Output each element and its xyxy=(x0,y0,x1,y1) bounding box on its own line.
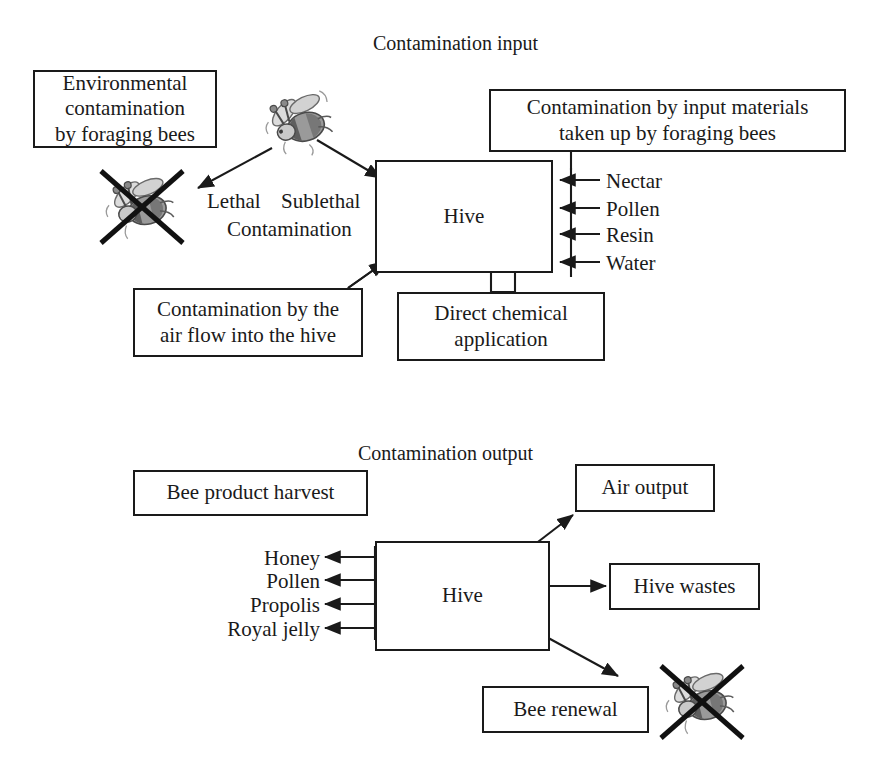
box-environmental-contamination[interactable]: Environmental contamination by foraging … xyxy=(33,70,217,148)
box-environmental-line1: Environmental xyxy=(55,71,195,97)
box-input-materials[interactable]: Contamination by input materials taken u… xyxy=(489,89,846,152)
box-environmental-line2: contamination xyxy=(55,96,195,122)
box-environmental-line3: by foraging bees xyxy=(55,122,195,148)
box-hive-wastes-label: Hive wastes xyxy=(633,574,735,600)
label-sublethal: Sublethal xyxy=(281,189,360,214)
box-bee-product-harvest[interactable]: Bee product harvest xyxy=(133,470,368,516)
label-honey: Honey xyxy=(120,546,320,571)
label-pollen-out: Pollen xyxy=(120,569,320,594)
label-resin: Resin xyxy=(606,223,654,248)
box-input-materials-line1: Contamination by input materials xyxy=(527,95,809,121)
box-air-flow-line2: air flow into the hive xyxy=(157,323,339,349)
box-direct-chemical-line1: Direct chemical xyxy=(434,301,568,327)
box-hive-output-label: Hive xyxy=(442,583,483,609)
box-bee-renewal[interactable]: Bee renewal xyxy=(482,686,649,733)
label-lethal: Lethal xyxy=(207,189,261,214)
box-input-materials-line2: taken up by foraging bees xyxy=(527,121,809,147)
label-contamination: Contamination xyxy=(227,217,352,242)
label-nectar: Nectar xyxy=(606,169,662,194)
section-title-output: Contamination output xyxy=(358,442,533,465)
box-bee-product-harvest-label: Bee product harvest xyxy=(167,480,335,506)
label-water: Water xyxy=(606,251,656,276)
bee-icon xyxy=(258,86,344,158)
box-hive-input[interactable]: Hive xyxy=(375,160,553,273)
box-bee-renewal-label: Bee renewal xyxy=(513,697,617,723)
box-air-flow-contamination[interactable]: Contamination by the air flow into the h… xyxy=(133,288,363,357)
contamination-flow-diagram: Contamination input Contamination output… xyxy=(0,0,872,772)
box-air-output-label: Air output xyxy=(602,475,689,501)
box-hive-input-label: Hive xyxy=(444,204,485,230)
crossed-out-bee-icon-renewal xyxy=(655,658,751,744)
box-hive-output[interactable]: Hive xyxy=(375,541,550,651)
box-air-output[interactable]: Air output xyxy=(575,464,715,512)
label-pollen: Pollen xyxy=(606,197,660,222)
box-air-flow-line1: Contamination by the xyxy=(157,297,339,323)
box-hive-wastes[interactable]: Hive wastes xyxy=(609,563,760,610)
box-direct-chemical-application[interactable]: Direct chemical application xyxy=(397,292,605,361)
section-title-input: Contamination input xyxy=(373,32,538,55)
label-royal-jelly: Royal jelly xyxy=(120,617,320,642)
box-direct-chemical-line2: application xyxy=(434,327,568,353)
label-propolis: Propolis xyxy=(120,593,320,618)
crossed-out-bee-icon-lethal xyxy=(95,163,191,249)
